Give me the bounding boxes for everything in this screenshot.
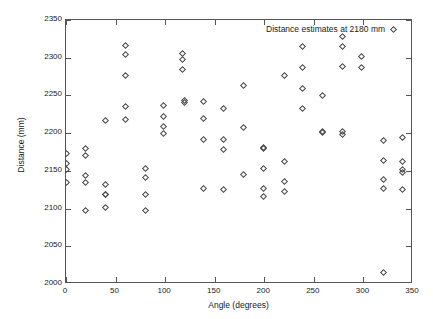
y-tick-mark: [66, 95, 71, 96]
data-point: [260, 185, 267, 192]
data-point: [102, 204, 109, 211]
y-tick-mark: [66, 58, 71, 59]
x-axis-title: Angle (degrees): [65, 300, 412, 310]
data-point: [339, 43, 346, 50]
data-point: [339, 63, 346, 70]
data-point: [122, 116, 129, 123]
scatter-plot-figure: Angle (degrees) Distance (mm) Distance e…: [0, 0, 433, 319]
data-point: [240, 124, 247, 131]
data-point: [160, 102, 167, 109]
x-tick-mark-top: [165, 20, 166, 25]
y-tick-mark-right: [406, 20, 411, 21]
y-tick-label: 2100: [44, 204, 62, 212]
y-tick-mark-right: [406, 133, 411, 134]
data-point: [281, 72, 288, 79]
y-tick-mark: [66, 246, 71, 247]
data-point: [220, 105, 227, 112]
data-point: [66, 150, 70, 157]
data-point: [281, 178, 288, 185]
y-tick-label: 2300: [44, 53, 62, 61]
data-point: [200, 115, 207, 122]
data-point: [319, 92, 326, 99]
data-point: [358, 64, 365, 71]
x-tick-label: 200: [248, 287, 278, 295]
data-point: [66, 179, 70, 186]
data-point: [399, 134, 406, 141]
data-point: [399, 186, 406, 193]
data-point: [220, 186, 227, 193]
y-tick-label: 2000: [44, 279, 62, 287]
data-point: [122, 42, 129, 49]
y-axis-title: Distance (mm): [16, 85, 26, 205]
data-point: [299, 64, 306, 71]
x-tick-mark: [165, 277, 166, 282]
x-tick-label: 250: [298, 287, 328, 295]
x-tick-mark-top: [116, 20, 117, 25]
data-point: [380, 157, 387, 164]
data-point: [82, 172, 89, 179]
data-point: [200, 136, 207, 143]
data-point: [200, 185, 207, 192]
data-point: [260, 145, 267, 152]
y-tick-mark: [66, 133, 71, 134]
x-tick-mark: [116, 277, 117, 282]
y-tick-mark-right: [406, 95, 411, 96]
data-point: [380, 137, 387, 144]
data-point: [240, 171, 247, 178]
x-tick-mark: [264, 277, 265, 282]
x-tick-label: 0: [50, 287, 80, 295]
data-point: [299, 105, 306, 112]
x-tick-mark: [66, 277, 67, 282]
data-point: [122, 103, 129, 110]
data-point: [102, 191, 109, 198]
data-point: [240, 82, 247, 89]
x-tick-label: 300: [347, 287, 377, 295]
data-point: [200, 98, 207, 105]
y-tick-mark-right: [406, 209, 411, 210]
data-point: [339, 33, 346, 40]
y-tick-label: 2200: [44, 128, 62, 136]
data-point: [122, 72, 129, 79]
data-point: [380, 269, 387, 276]
y-tick-label: 2150: [44, 166, 62, 174]
y-tick-label: 2250: [44, 90, 62, 98]
data-point: [299, 43, 306, 50]
data-point: [102, 117, 109, 124]
data-point: [220, 146, 227, 153]
data-point: [82, 152, 89, 159]
data-point: [160, 113, 167, 120]
x-tick-label: 150: [199, 287, 229, 295]
data-point: [142, 174, 149, 181]
data-point: [179, 56, 186, 63]
data-point: [260, 165, 267, 172]
data-point: [142, 165, 149, 172]
x-tick-mark: [314, 277, 315, 282]
data-point: [82, 179, 89, 186]
legend-label: Distance estimates at 2180 mm: [266, 24, 385, 34]
x-tick-label: 350: [397, 287, 427, 295]
data-point: [358, 53, 365, 60]
data-point: [142, 191, 149, 198]
data-point: [299, 85, 306, 92]
legend-marker-icon: [390, 25, 397, 32]
data-point: [122, 51, 129, 58]
data-point: [220, 136, 227, 143]
data-point: [281, 188, 288, 195]
x-tick-label: 50: [100, 287, 130, 295]
data-point: [281, 158, 288, 165]
data-point: [260, 193, 267, 200]
plot-frame: [65, 19, 412, 283]
data-point: [179, 66, 186, 73]
y-tick-label: 2050: [44, 241, 62, 249]
x-tick-mark: [215, 277, 216, 282]
y-tick-mark: [66, 209, 71, 210]
y-tick-mark-right: [406, 171, 411, 172]
data-point: [380, 176, 387, 183]
data-point: [142, 207, 149, 214]
y-tick-label: 2350: [44, 15, 62, 23]
y-tick-mark-right: [406, 58, 411, 59]
data-point: [380, 185, 387, 192]
plot-area: [66, 20, 411, 282]
data-point: [399, 158, 406, 165]
x-tick-mark-top: [66, 20, 67, 25]
